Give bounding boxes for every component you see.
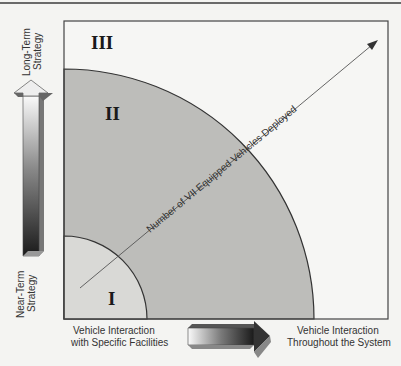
strategy-diagram: Number of VII Equipped Vehicles Deployed… (0, 0, 401, 366)
region-iii-label: III (91, 32, 113, 53)
vertical-strategy-arrow-icon (14, 80, 53, 256)
horizontal-left-label-line1: Vehicle Interaction (73, 325, 155, 336)
horizontal-right-label-line1: Vehicle Interaction (297, 325, 379, 336)
region-ii-label: II (105, 103, 120, 124)
long-term-label-line2: Strategy (32, 33, 43, 70)
near-term-label-line1: Near-Term (15, 271, 26, 318)
horizontal-right-label-line2: Throughout the System (287, 337, 391, 348)
long-term-label-line1: Long-Term (21, 28, 32, 76)
horizontal-progress-arrow-icon (188, 321, 271, 358)
region-i-label: I (108, 288, 115, 309)
near-term-label-line2: Strategy (26, 275, 37, 312)
horizontal-left-label-line2: with Specific Facilities (70, 337, 168, 348)
